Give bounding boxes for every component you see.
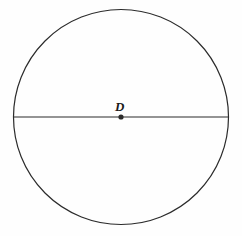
center-point-label-d: D xyxy=(115,100,124,113)
center-point-dot xyxy=(118,114,123,119)
geometry-figure: D xyxy=(0,0,242,236)
circle-diagram-canvas xyxy=(0,0,242,236)
